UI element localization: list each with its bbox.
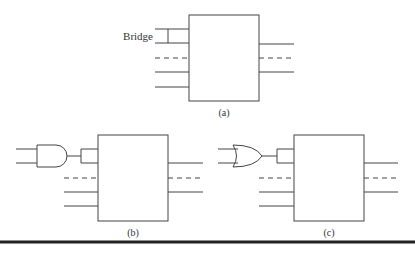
circuit-block-c: [294, 135, 364, 221]
panel-c: [218, 135, 398, 221]
caption-b: (b): [127, 227, 139, 239]
circuit-block-a: [189, 15, 259, 101]
caption-c: (c): [323, 227, 334, 239]
bridge-fault-diagram: Bridge (a) (b) (c): [0, 0, 415, 257]
caption-a: (a): [218, 107, 229, 119]
and-gate-icon: [37, 145, 67, 167]
or-gate-icon: [233, 145, 262, 167]
bridge-label: Bridge: [123, 30, 153, 42]
circuit-block-b: [98, 135, 168, 221]
bridge-connection-b: [81, 149, 98, 163]
bridge-connection-c: [277, 149, 294, 163]
panel-a: [155, 15, 294, 101]
panel-b: [16, 135, 203, 221]
